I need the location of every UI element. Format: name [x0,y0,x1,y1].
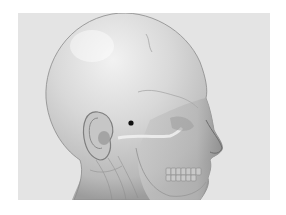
point-marker [128,120,133,125]
teeth [166,168,201,181]
head-illustration [0,0,286,215]
skull-highlight [70,30,114,62]
anatomy-figure [0,0,286,215]
